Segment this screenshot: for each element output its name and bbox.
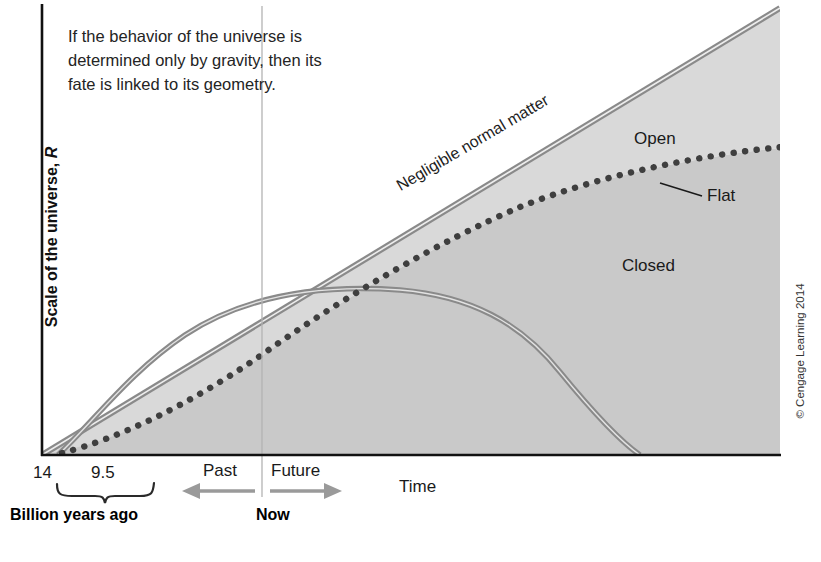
- now-label: Now: [256, 506, 290, 524]
- cosmology-fate-diagram: If the behavior of the universe is deter…: [0, 0, 821, 562]
- future-arrow: [270, 483, 342, 499]
- closed-region-label: Closed: [622, 256, 675, 276]
- x-axis-label: Time: [399, 477, 436, 497]
- y-axis-label: Scale of the universe, R: [43, 107, 61, 367]
- past-arrow: [182, 483, 255, 499]
- flat-curve-label: Flat: [707, 186, 735, 206]
- x-tick-label-14: 14: [33, 463, 52, 483]
- billion-years-brace: [57, 483, 154, 503]
- open-region-label: Open: [634, 129, 676, 149]
- copyright-notice: © Cengage Learning 2014: [794, 261, 806, 441]
- y-axis-label-symbol: R: [43, 147, 60, 159]
- caption-text: If the behavior of the universe is deter…: [68, 24, 368, 96]
- y-axis-label-main: Scale of the universe,: [43, 158, 60, 327]
- past-label: Past: [203, 461, 237, 481]
- future-label: Future: [271, 461, 320, 481]
- x-tick-label-9-5: 9.5: [91, 463, 115, 483]
- billion-years-ago-label: Billion years ago: [10, 506, 138, 524]
